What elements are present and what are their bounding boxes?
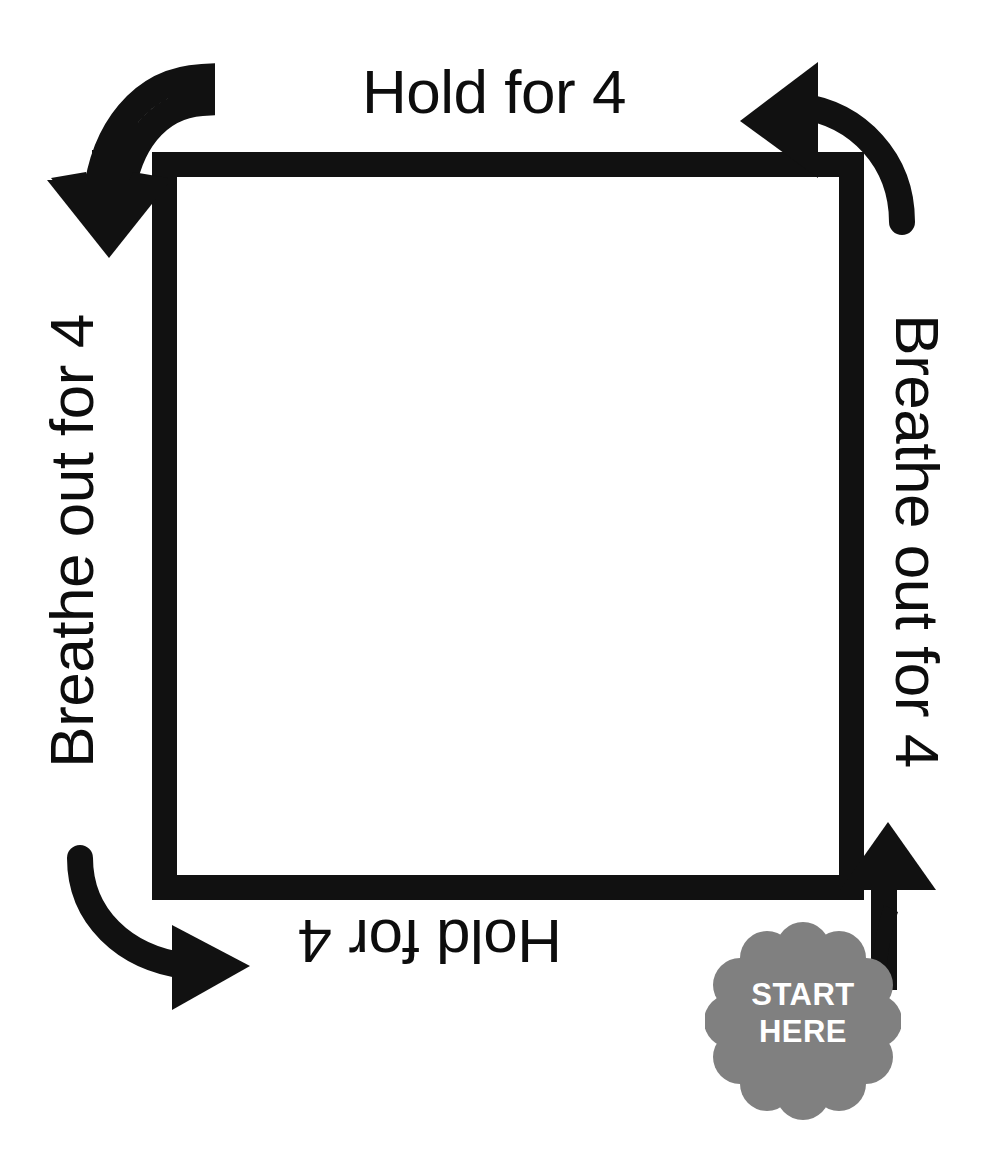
badge-line-1: START [705,977,901,1014]
label-breathe-out-left: Breathe out for 4 [41,211,103,871]
label-hold-top: Hold for 4 [0,61,988,123]
diagram-canvas: Hold for 4 Breathe out for 4 Hold for 4 … [0,0,988,1173]
label-breathe-out-right: Breathe out for 4 [886,211,948,871]
breathing-square [165,165,852,888]
start-here-badge-text: START HERE [705,977,901,1050]
badge-line-2: HERE [705,1014,901,1051]
start-here-badge[interactable]: START HERE [705,921,901,1121]
